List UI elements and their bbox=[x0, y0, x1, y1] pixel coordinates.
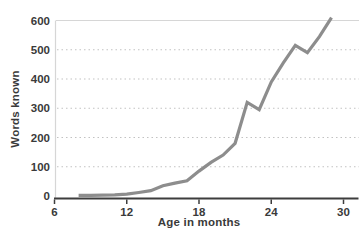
y-tick-label: 400 bbox=[31, 73, 50, 85]
y-tick-label: 0 bbox=[44, 190, 50, 202]
chart-plot-area: 6121824300100200300400500600 bbox=[0, 0, 364, 239]
y-axis-title: Words known bbox=[9, 70, 21, 147]
y-tick-label: 300 bbox=[31, 102, 50, 114]
y-tick-label: 600 bbox=[31, 15, 50, 27]
y-tick-label: 200 bbox=[31, 132, 50, 144]
x-tick-label: 6 bbox=[51, 206, 57, 218]
words-known-line bbox=[79, 18, 332, 196]
y-tick-label: 100 bbox=[31, 161, 50, 173]
x-tick-label: 24 bbox=[265, 206, 278, 218]
x-axis-title: Age in months bbox=[158, 216, 240, 228]
x-tick-label: 30 bbox=[337, 206, 350, 218]
x-tick-label: 12 bbox=[120, 206, 133, 218]
words-known-chart: 6121824300100200300400500600 Words known… bbox=[0, 0, 364, 239]
y-tick-label: 500 bbox=[31, 44, 50, 56]
